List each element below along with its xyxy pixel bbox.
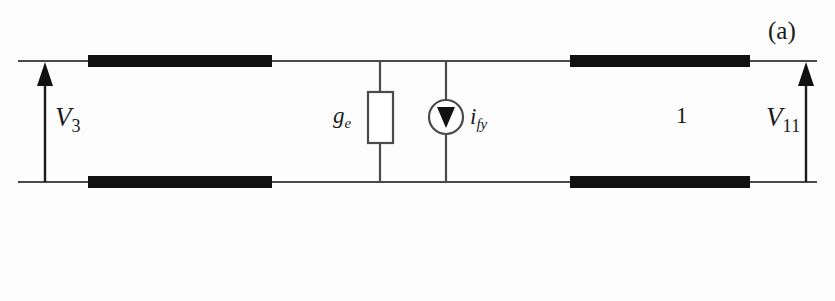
right-port-voltage-label: V11 [766, 104, 800, 135]
branch-number-label: 1 [676, 104, 688, 127]
left-port-voltage-subscript: 3 [72, 116, 81, 136]
conductance-subscript: e [345, 115, 352, 131]
left-bottom-conductor-bar [88, 176, 272, 188]
resistor-box [368, 92, 393, 143]
right-bottom-conductor-bar [570, 176, 750, 188]
current-source-subscript: fy [476, 116, 487, 132]
left-arrowhead-icon [37, 62, 53, 86]
left-top-conductor-bar [88, 55, 272, 67]
current-source-label: ify [470, 105, 487, 132]
current-source-branch [429, 61, 463, 182]
conductance-branch [368, 61, 393, 182]
right-top-conductor-bar [570, 55, 750, 67]
circuit-drawing [0, 0, 835, 301]
conductance-label: ge [333, 104, 351, 131]
circuit-figure: V3 V11 ge ify 1 (a) [0, 0, 835, 301]
right-port-voltage-subscript: 11 [783, 116, 801, 136]
left-port-voltage-arrow [37, 62, 53, 182]
left-port-voltage-label: V3 [55, 104, 81, 135]
right-arrowhead-icon [798, 62, 814, 86]
figure-caption: (a) [768, 18, 796, 43]
